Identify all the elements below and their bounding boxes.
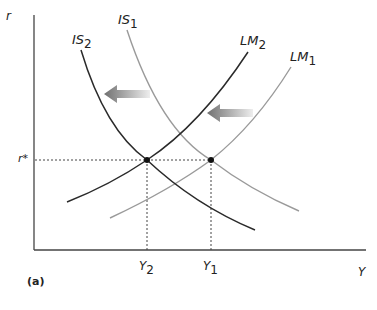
new-equilibrium-point: [144, 157, 150, 163]
is-shift-arrow-icon: [104, 85, 150, 103]
lm2-curve: [67, 52, 248, 202]
y1-label: Y1: [203, 259, 218, 277]
lm-shift-arrow-icon: [207, 104, 253, 122]
is2-label: IS2: [72, 32, 92, 51]
lm1-label: LM1: [290, 49, 316, 68]
lm2-label: LM2: [240, 33, 266, 52]
panel-label: (a): [27, 275, 44, 288]
x-axis-label: Y: [358, 265, 367, 279]
old-equilibrium-point: [208, 157, 214, 163]
is2-curve: [81, 50, 255, 230]
is1-label: IS1: [118, 12, 138, 31]
y2-label: Y2: [139, 259, 154, 277]
y-axis-label: r: [6, 9, 12, 23]
is-lm-diagram: r Y IS2 IS1 LM2 LM1 r* Y2 Y1 (a): [0, 0, 377, 310]
is1-curve: [127, 30, 299, 211]
r-star-label: r*: [18, 152, 29, 165]
lm1-curve: [110, 67, 291, 218]
